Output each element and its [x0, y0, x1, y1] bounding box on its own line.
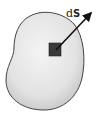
closed-surface: [6, 12, 84, 110]
vector-label-symbol: S: [73, 8, 80, 19]
vector-label-ds: dS: [66, 8, 80, 19]
vector-label-prefix: d: [66, 7, 73, 20]
surface-diagram: dS: [0, 0, 99, 118]
surface-element: [49, 43, 61, 56]
diagram-canvas: [0, 0, 99, 118]
